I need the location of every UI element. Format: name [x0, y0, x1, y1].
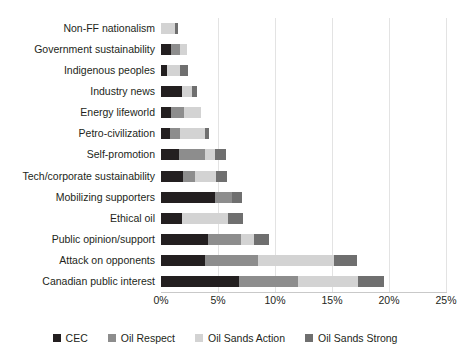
bar-row[interactable] [161, 123, 446, 144]
bar-segment-oil-sands-strong[interactable] [175, 23, 178, 34]
category-label: Ethical oil [0, 208, 155, 229]
category-label: Public opinion/support [0, 229, 155, 250]
bar-segment-oil-respect[interactable] [171, 107, 184, 118]
bar-segment-cec[interactable] [161, 149, 179, 160]
bar-row[interactable] [161, 18, 446, 39]
legend-item[interactable]: Oil Sands Strong [305, 332, 397, 344]
bar-segment-oil-sands-action[interactable] [182, 86, 192, 97]
bar-segment-oil-respect[interactable] [179, 149, 205, 160]
bar-segment-oil-sands-action[interactable] [167, 65, 181, 76]
legend-label: Oil Sands Strong [318, 332, 397, 344]
chart-legend: CECOil RespectOil Sands ActionOil Sands … [0, 328, 450, 348]
bar-segment-oil-sands-strong[interactable] [232, 192, 242, 203]
bar-segment-oil-respect[interactable] [205, 255, 257, 266]
stacked-bar[interactable] [161, 149, 226, 160]
bar-segment-oil-sands-action[interactable] [180, 44, 187, 55]
x-tick-label: 0% [153, 294, 168, 306]
bar-segment-oil-sands-strong[interactable] [192, 86, 198, 97]
stacked-bar[interactable] [161, 107, 201, 118]
bar-segment-oil-sands-strong[interactable] [228, 213, 243, 224]
legend-item[interactable]: Oil Sands Action [195, 332, 285, 344]
bar-segment-oil-sands-action[interactable] [184, 107, 201, 118]
bar-segment-oil-sands-strong[interactable] [334, 255, 357, 266]
bar-segment-cec[interactable] [161, 107, 171, 118]
category-label: Petro-civilization [0, 123, 155, 144]
bar-segment-oil-sands-strong[interactable] [358, 276, 384, 287]
bar-segment-oil-sands-strong[interactable] [254, 234, 269, 245]
bar-segment-oil-sands-action[interactable] [182, 213, 229, 224]
bar-segment-oil-respect[interactable] [239, 276, 298, 287]
bar-segment-oil-sands-strong[interactable] [205, 128, 208, 139]
legend-swatch-icon [53, 334, 61, 342]
bar-segment-oil-sands-action[interactable] [180, 128, 205, 139]
category-label: Tech/corporate sustainability [0, 166, 155, 187]
legend-item[interactable]: CEC [53, 332, 88, 344]
bar-row[interactable] [161, 60, 446, 81]
bar-segment-oil-sands-strong[interactable] [215, 149, 226, 160]
stacked-bar[interactable] [161, 192, 242, 203]
x-tick-label: 20% [378, 294, 399, 306]
stacked-bar[interactable] [161, 44, 187, 55]
bar-segment-cec[interactable] [161, 255, 205, 266]
bar-row[interactable] [161, 208, 446, 229]
category-label: Attack on opponents [0, 250, 155, 271]
bar-segment-oil-sands-action[interactable] [161, 23, 175, 34]
bar-row[interactable] [161, 166, 446, 187]
stacked-bar[interactable] [161, 276, 384, 287]
stacked-bar[interactable] [161, 213, 243, 224]
stacked-bar[interactable] [161, 86, 197, 97]
category-label: Industry news [0, 81, 155, 102]
x-tick-label: 15% [321, 294, 342, 306]
stacked-bar[interactable] [161, 234, 269, 245]
gridline-25pct [446, 18, 447, 292]
bar-segment-cec[interactable] [161, 44, 171, 55]
legend-label: Oil Respect [121, 332, 175, 344]
bar-segment-oil-respect[interactable] [183, 171, 196, 182]
bar-row[interactable] [161, 81, 446, 102]
bar-segment-cec[interactable] [161, 86, 182, 97]
legend-label: CEC [66, 332, 88, 344]
bar-row[interactable] [161, 187, 446, 208]
bar-segment-oil-respect[interactable] [208, 234, 241, 245]
bar-row[interactable] [161, 229, 446, 250]
legend-swatch-icon [195, 334, 203, 342]
bar-row[interactable] [161, 250, 446, 271]
x-axis-tick-labels: 0%5%10%15%20%25% [0, 294, 450, 310]
legend-label: Oil Sands Action [208, 332, 285, 344]
bar-segment-cec[interactable] [161, 171, 183, 182]
bar-segment-cec[interactable] [161, 128, 170, 139]
legend-swatch-icon [305, 334, 313, 342]
category-label: Government sustainability [0, 39, 155, 60]
bar-segment-oil-respect[interactable] [171, 44, 180, 55]
stacked-bar[interactable] [161, 171, 227, 182]
bar-segment-oil-respect[interactable] [170, 128, 180, 139]
bar-row[interactable] [161, 39, 446, 60]
bar-segment-cec[interactable] [161, 213, 182, 224]
bar-segment-oil-respect[interactable] [215, 192, 232, 203]
bar-segment-oil-sands-strong[interactable] [216, 171, 227, 182]
bar-segment-oil-sands-action[interactable] [241, 234, 255, 245]
bar-rows [161, 18, 446, 292]
bar-row[interactable] [161, 102, 446, 123]
bar-segment-oil-sands-action[interactable] [205, 149, 214, 160]
bar-segment-oil-sands-action[interactable] [298, 276, 358, 287]
bar-segment-oil-sands-action[interactable] [195, 171, 216, 182]
stacked-bar[interactable] [161, 23, 178, 34]
category-label: Indigenous peoples [0, 60, 155, 81]
legend-swatch-icon [108, 334, 116, 342]
category-label: Self-promotion [0, 144, 155, 165]
stacked-bar[interactable] [161, 65, 188, 76]
bar-segment-cec[interactable] [161, 234, 208, 245]
category-label: Energy lifeworld [0, 102, 155, 123]
bar-segment-oil-sands-action[interactable] [258, 255, 334, 266]
stacked-bar[interactable] [161, 128, 209, 139]
x-axis-line [161, 292, 447, 293]
bar-row[interactable] [161, 144, 446, 165]
bar-row[interactable] [161, 271, 446, 292]
bar-segment-cec[interactable] [161, 192, 215, 203]
category-label: Canadian public interest [0, 271, 155, 292]
bar-segment-oil-sands-strong[interactable] [180, 65, 188, 76]
bar-segment-cec[interactable] [161, 276, 239, 287]
stacked-bar[interactable] [161, 255, 357, 266]
legend-item[interactable]: Oil Respect [108, 332, 175, 344]
